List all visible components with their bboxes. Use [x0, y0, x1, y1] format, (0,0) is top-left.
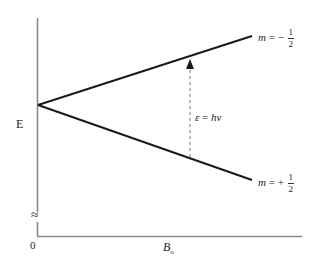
origin-label: 0 — [30, 240, 36, 251]
x-axis-label-sub: o — [170, 248, 174, 256]
h-nu: hν — [211, 111, 221, 123]
equals: = — [266, 176, 278, 188]
numerator: 1 — [288, 173, 293, 182]
equals: = — [199, 111, 211, 123]
sign: + — [278, 176, 284, 188]
x-axis-label: Bo — [163, 241, 174, 256]
m-symbol: m — [258, 31, 266, 43]
denominator: 2 — [288, 185, 293, 194]
m-symbol: m — [258, 176, 266, 188]
lower-level-label: m = + 12 — [258, 173, 294, 194]
sign: − — [278, 31, 284, 43]
numerator: 1 — [288, 28, 293, 37]
y-axis-label: E — [16, 118, 23, 130]
upper-level-label: m = − 12 — [258, 28, 294, 49]
fraction: 12 — [288, 173, 294, 194]
upper-level-line — [38, 36, 252, 105]
axis-break-icon: ≈ — [31, 208, 38, 221]
denominator: 2 — [288, 40, 293, 49]
transition-label: ε = hν — [195, 112, 221, 123]
fraction: 12 — [288, 28, 294, 49]
equals: = — [266, 31, 278, 43]
arrowhead-icon — [186, 59, 194, 69]
